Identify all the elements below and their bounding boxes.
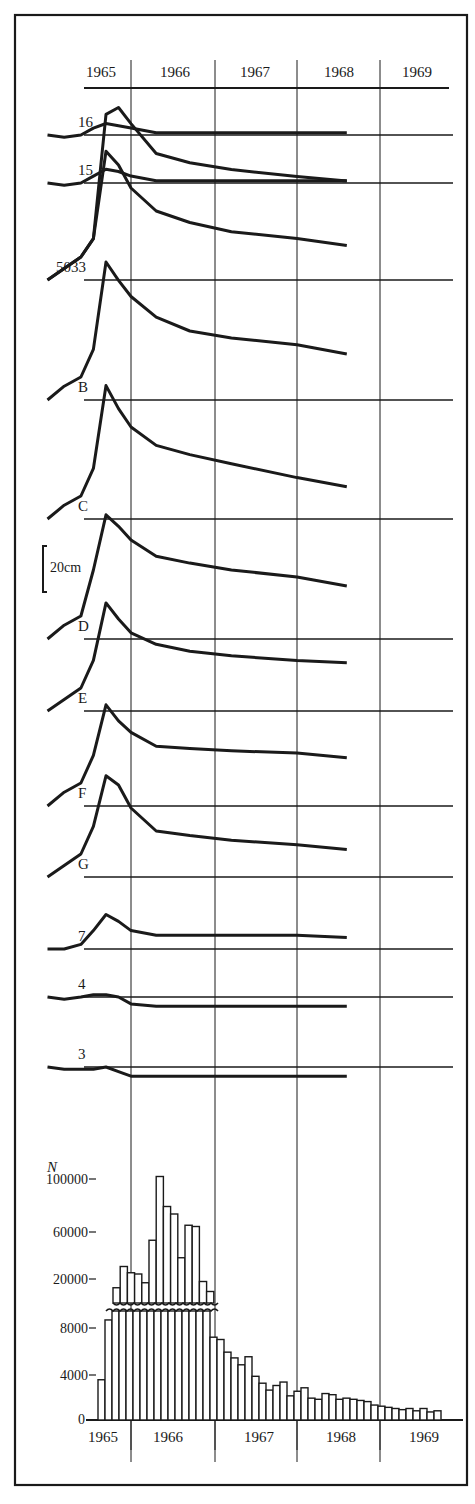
header-year-label: 1967 [240,64,271,80]
histogram-bar-upper [156,1177,163,1304]
event-count-histogram: N100000600002000080004000019651966196719… [46,1159,463,1450]
profile-label: B [78,379,88,395]
header-year-label: 1966 [160,64,191,80]
histogram-bar [217,1340,224,1421]
profile-15: 15 [48,162,454,185]
histogram-bar [399,1410,406,1420]
scale-bar-bracket-icon [43,546,47,592]
histogram-bar [301,1388,308,1420]
histogram-bar [154,1311,161,1420]
x-tick-label: 1965 [88,1429,118,1445]
profile-c: C [48,386,454,519]
histogram-bar [196,1311,203,1420]
histogram-bar [203,1311,210,1420]
histogram-bar [294,1391,301,1420]
histogram-bar-upper [171,1214,178,1303]
histogram-bar [329,1395,336,1420]
histogram-bar [140,1311,147,1420]
histogram-bar [259,1383,266,1420]
histogram-bar [112,1311,119,1420]
y-tick-label: 4000 [60,1368,88,1383]
histogram-bar [161,1311,168,1420]
histogram-bar [413,1411,420,1420]
histogram-bar [175,1311,182,1420]
profile-d: D [48,515,454,639]
y-tick-label: 20000 [53,1272,88,1287]
profile-curve [48,603,347,711]
histogram-bar [280,1382,287,1420]
y-tick-label: 100000 [46,1172,88,1187]
histogram-bar-upper [199,1282,206,1304]
histogram-bar [224,1352,231,1420]
profile-4: 4 [48,976,454,1006]
histogram-bar [126,1311,133,1420]
histogram-bar [189,1311,196,1420]
histogram-bar [182,1311,189,1420]
profile-label: F [78,785,86,801]
profile-label: D [78,618,89,634]
histogram-bar-upper [185,1225,192,1303]
histogram-bar [378,1406,385,1420]
histogram-bar [266,1390,273,1420]
profile-3: 3 [48,1046,454,1076]
profile-f: F [48,705,454,806]
y-tick-label: 60000 [53,1225,88,1240]
histogram-bar-upper [207,1292,214,1304]
header-year-label: 1965 [86,64,116,80]
histogram-bar [336,1399,343,1420]
profile-curve [48,386,347,519]
histogram-bar [287,1396,294,1420]
histogram-bar-upper [163,1207,170,1304]
histogram-bar [357,1400,364,1420]
y-tick-label-zero: 0 [78,1412,85,1427]
histogram-bar-upper [178,1258,185,1303]
histogram-bar-upper [135,1274,142,1303]
histogram-bar [308,1398,315,1420]
figure: 19651966196719681969 16155033BCDEFG743 2… [0,0,475,1504]
histogram-bar [273,1386,280,1421]
profile-label: C [78,498,88,514]
scale-bar: 20cm [43,546,81,592]
x-tick-label: 1969 [409,1429,439,1445]
histogram-bar [105,1320,112,1420]
profile-16: 16 [48,114,454,137]
histogram-bar [434,1411,441,1420]
profile-curve [48,705,347,806]
histogram-bar [133,1311,140,1420]
profile-label: G [78,856,89,872]
scale-bar-label: 20cm [50,560,81,575]
histogram-bar [343,1398,350,1420]
histogram-bar-upper [127,1273,134,1303]
x-tick-label: 1968 [326,1429,356,1445]
x-tick-label: 1966 [153,1429,184,1445]
histogram-bar [420,1409,427,1421]
profile-curve [48,776,347,877]
displacement-profiles: 16155033BCDEFG743 [48,108,454,1077]
histogram-bar [315,1399,322,1420]
histogram-bar-upper [113,1288,120,1303]
histogram-bar-upper [142,1283,149,1303]
histogram-bar [210,1337,217,1420]
profile-label: E [78,690,87,706]
histogram-bar [385,1407,392,1420]
histogram-bar [252,1376,259,1420]
year-header: 19651966196719681969 [84,64,449,88]
histogram-bar [427,1412,434,1420]
histogram-bar [168,1311,175,1420]
profile-g: G [48,776,454,877]
x-tick-label: 1967 [244,1429,275,1445]
histogram-bar [350,1399,357,1420]
profile-curve [48,915,347,950]
histogram-bar [364,1402,371,1420]
histogram-bar [238,1365,245,1420]
header-year-label: 1969 [402,64,432,80]
profile-label: 16 [78,114,94,130]
histogram-bar [371,1405,378,1420]
y-tick-label: 8000 [60,1321,88,1336]
histogram-bar [147,1311,154,1420]
profile-b: B [48,262,454,400]
histogram-bar [406,1409,413,1421]
histogram-bar-upper [149,1240,156,1303]
profile-label: 3 [78,1046,86,1062]
profile-curve [48,262,347,400]
